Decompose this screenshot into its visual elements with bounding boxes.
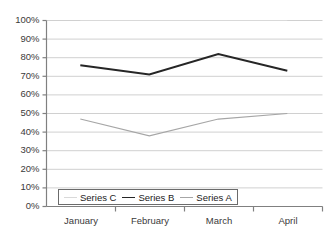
chart-plot-area [0, 0, 334, 245]
y-axis-label: 80% [20, 51, 39, 62]
y-axis-label: 0% [26, 200, 40, 211]
x-axis-label-february: February [110, 215, 190, 226]
line-chart: 0%10%20%30%40%50%60%70%80%90%100% Januar… [0, 0, 334, 245]
x-axis-label-april: April [248, 215, 328, 226]
y-axis-label: 10% [20, 181, 39, 192]
y-axis-label: 20% [20, 163, 39, 174]
x-axis-label-january: January [41, 215, 121, 226]
y-axis-label: 70% [20, 70, 39, 81]
legend-label: Series C [80, 192, 116, 203]
legend-entry-series-c[interactable]: Series C [64, 192, 116, 203]
legend-entry-series-a[interactable]: Series A [180, 192, 231, 203]
legend-swatch-icon [122, 197, 135, 198]
series-line-series-b [80, 54, 287, 74]
y-axis-label: 30% [20, 144, 39, 155]
y-axis-label: 100% [15, 14, 39, 25]
y-axis-label: 50% [20, 107, 39, 118]
chart-legend[interactable]: Series CSeries BSeries A [58, 189, 238, 205]
legend-entry-series-b[interactable]: Series B [122, 192, 174, 203]
y-axis-label: 40% [20, 126, 39, 137]
y-axis-label: 90% [20, 33, 39, 44]
legend-swatch-icon [180, 197, 193, 198]
y-axis-label: 60% [20, 88, 39, 99]
legend-label: Series B [138, 192, 174, 203]
legend-swatch-icon [64, 197, 77, 198]
legend-label: Series A [196, 192, 231, 203]
x-axis-label-march: March [179, 215, 259, 226]
